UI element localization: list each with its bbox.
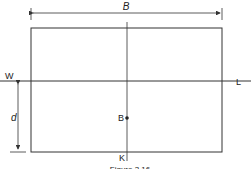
- breadth-label: B: [123, 1, 130, 12]
- box-section-diagram: B W L d B K Figure 3.16: [0, 0, 251, 169]
- depth-label: d: [11, 112, 17, 123]
- depth-dimension: d: [10, 84, 26, 152]
- centre-of-buoyancy-point: [125, 116, 129, 120]
- keel-label: K: [119, 153, 125, 163]
- figure-caption: Figure 3.16: [110, 165, 151, 169]
- waterline-right-label: L: [236, 77, 241, 87]
- hull-section-rect: [31, 28, 222, 152]
- breadth-dimension: B: [31, 1, 222, 20]
- centre-of-buoyancy-label: B: [118, 113, 124, 123]
- waterline-left-label: W: [5, 71, 14, 81]
